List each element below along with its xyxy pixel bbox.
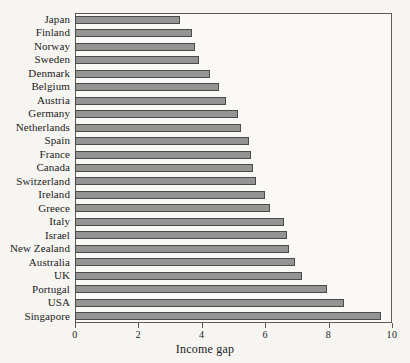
bar-israel [75, 231, 287, 239]
category-label-finland: Finland [0, 26, 70, 39]
x-tick-label-4: 4 [182, 329, 222, 340]
category-label-portugal: Portugal [0, 283, 70, 296]
category-label-sweden: Sweden [0, 53, 70, 66]
bar-row [75, 94, 392, 107]
category-label-belgium: Belgium [0, 80, 70, 93]
bar-uk [75, 272, 302, 280]
bar-row [75, 269, 392, 282]
category-label-austria: Austria [0, 94, 70, 107]
bar-spain [75, 137, 249, 145]
category-label-greece: Greece [0, 202, 70, 215]
bar-row [75, 40, 392, 53]
x-axis-title: Income gap [0, 342, 410, 357]
x-tick-label-6: 6 [245, 329, 285, 340]
bar-row [75, 134, 392, 147]
category-label-norway: Norway [0, 40, 70, 53]
bar-row [75, 242, 392, 255]
bar-france [75, 151, 251, 159]
category-label-canada: Canada [0, 161, 70, 174]
x-tick-6 [265, 323, 266, 328]
bar-row [75, 175, 392, 188]
bar-austria [75, 97, 226, 105]
bar-germany [75, 110, 238, 118]
x-tick-label-10: 10 [372, 329, 410, 340]
bar-row [75, 107, 392, 120]
bar-portugal [75, 285, 327, 293]
bar-new-zealand [75, 245, 289, 253]
category-label-switzerland: Switzerland [0, 175, 70, 188]
bar-row [75, 148, 392, 161]
bar-row [75, 229, 392, 242]
bar-canada [75, 164, 253, 172]
bar-row [75, 13, 392, 26]
bar-netherlands [75, 124, 241, 132]
bar-row [75, 121, 392, 134]
x-tick-0 [75, 323, 76, 328]
category-label-france: France [0, 148, 70, 161]
category-label-new-zealand: New Zealand [0, 242, 70, 255]
x-tick-label-8: 8 [309, 329, 349, 340]
category-label-denmark: Denmark [0, 67, 70, 80]
category-label-australia: Australia [0, 256, 70, 269]
bar-row [75, 202, 392, 215]
bar-row [75, 310, 392, 323]
bar-greece [75, 204, 270, 212]
bar-singapore [75, 312, 381, 320]
bar-italy [75, 218, 284, 226]
bar-row [75, 256, 392, 269]
category-label-singapore: Singapore [0, 310, 70, 323]
category-label-germany: Germany [0, 107, 70, 120]
bar-row [75, 283, 392, 296]
category-label-ireland: Ireland [0, 188, 70, 201]
bar-chart: JapanFinlandNorwaySwedenDenmarkBelgiumAu… [0, 0, 410, 363]
bar-sweden [75, 56, 199, 64]
bar-row [75, 296, 392, 309]
category-label-uk: UK [0, 269, 70, 282]
x-tick-label-0: 0 [55, 329, 95, 340]
bar-row [75, 188, 392, 201]
x-tick-10 [392, 323, 393, 328]
x-tick-8 [329, 323, 330, 328]
bar-usa [75, 299, 344, 307]
bar-switzerland [75, 177, 256, 185]
bar-row [75, 53, 392, 66]
category-label-italy: Italy [0, 215, 70, 228]
x-tick-2 [138, 323, 139, 328]
category-label-spain: Spain [0, 134, 70, 147]
bar-belgium [75, 83, 219, 91]
bar-norway [75, 43, 195, 51]
bar-row [75, 161, 392, 174]
bar-row [75, 26, 392, 39]
bar-finland [75, 29, 192, 37]
x-tick-4 [202, 323, 203, 328]
bar-row [75, 80, 392, 93]
bar-ireland [75, 191, 265, 199]
category-label-japan: Japan [0, 13, 70, 26]
category-label-usa: USA [0, 296, 70, 309]
bar-denmark [75, 70, 210, 78]
category-label-netherlands: Netherlands [0, 121, 70, 134]
bar-row [75, 215, 392, 228]
bar-japan [75, 16, 180, 24]
category-label-israel: Israel [0, 229, 70, 242]
x-tick-label-2: 2 [118, 329, 158, 340]
bar-australia [75, 258, 295, 266]
bar-row [75, 67, 392, 80]
